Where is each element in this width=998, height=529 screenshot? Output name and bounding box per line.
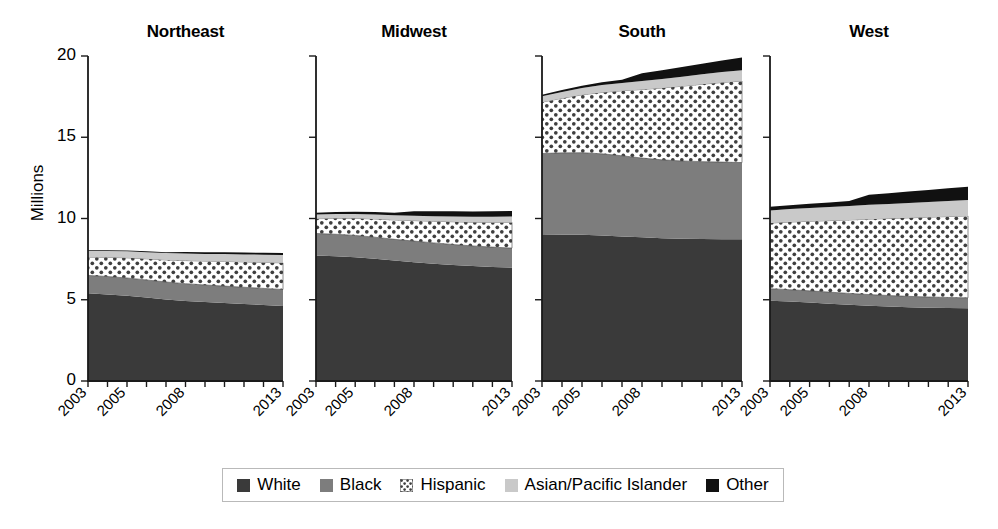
panel-south: [535, 56, 742, 387]
swatch-hispanic-series-icon: [400, 479, 413, 492]
swatch-api-series-icon: [505, 479, 518, 492]
area-band-white: [770, 301, 968, 381]
legend-label: Hispanic: [420, 475, 485, 495]
legend-label: White: [257, 475, 300, 495]
stacked-area-plot: [0, 0, 998, 529]
legend-item-black[interactable]: Black: [320, 475, 382, 495]
area-band-white: [542, 235, 742, 381]
swatch-white-series-icon: [237, 479, 250, 492]
legend-label: Other: [726, 475, 769, 495]
area-band-white: [88, 293, 283, 381]
panel-title-west: West: [730, 22, 998, 42]
panel-west: [763, 56, 968, 387]
swatch-other-series-icon: [706, 479, 719, 492]
legend-item-asian-pacific-islander[interactable]: Asian/Pacific Islander: [505, 475, 688, 495]
y-tick-label-20: 20: [42, 45, 76, 65]
legend-item-hispanic[interactable]: Hispanic: [400, 475, 485, 495]
panel-northeast: [81, 56, 283, 387]
y-tick-label-15: 15: [42, 126, 76, 146]
swatch-black-series-icon: [320, 479, 333, 492]
legend-label: Black: [340, 475, 382, 495]
y-tick-label-10: 10: [42, 208, 76, 228]
chart-legend: WhiteBlackHispanicAsian/Pacific Islander…: [222, 468, 784, 502]
y-tick-label-0: 0: [42, 370, 76, 390]
y-tick-label-5: 5: [42, 289, 76, 309]
panel-midwest: [309, 56, 512, 387]
area-band-hispanic: [770, 216, 968, 298]
legend-item-other[interactable]: Other: [706, 475, 769, 495]
chart-canvas: Millions 05101520 NortheastMidwestSouthW…: [0, 0, 998, 529]
legend-item-white[interactable]: White: [237, 475, 300, 495]
legend-label: Asian/Pacific Islander: [525, 475, 688, 495]
area-band-black: [542, 153, 742, 240]
y-axis-label: Millions: [28, 133, 48, 253]
area-band-white: [316, 256, 512, 381]
